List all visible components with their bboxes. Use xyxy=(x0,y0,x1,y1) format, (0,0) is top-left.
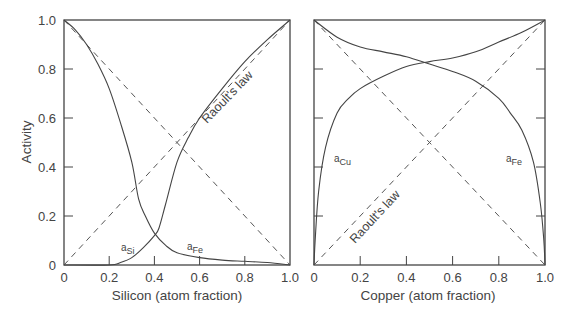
raoult-lines xyxy=(64,20,290,265)
x-tick-label: 0.8 xyxy=(236,270,254,285)
x-axis-label: Copper (atom fraction) xyxy=(360,288,495,303)
raoult-annotation: Raoult's law xyxy=(199,67,256,126)
x-tick-label: 0.6 xyxy=(191,270,209,285)
activity-figure: 00.20.40.60.81.000.20.40.60.81.0 Silicon… xyxy=(0,0,571,313)
x-tick-label: 0.8 xyxy=(490,270,508,285)
y-tick-label: 0.8 xyxy=(38,62,56,77)
y-tick-label: 0 xyxy=(49,258,56,273)
x-tick-label: 1.0 xyxy=(281,270,299,285)
raoult-annotation: Raoult's law xyxy=(347,187,404,246)
label-a-fe: aFe xyxy=(506,153,522,167)
label-a-fe: aFe xyxy=(187,241,203,255)
x-tick-label: 1.0 xyxy=(536,270,554,285)
x-tick-label: 0.2 xyxy=(351,270,369,285)
y-tick-label: 0.6 xyxy=(38,111,56,126)
x-axis-label: Silicon (atom fraction) xyxy=(112,288,243,303)
y-tick-label: 1.0 xyxy=(38,13,56,28)
x-tick-label: 0 xyxy=(60,270,67,285)
x-tick-label: 0.2 xyxy=(100,270,118,285)
x-tick-label: 0 xyxy=(310,270,317,285)
panel-copper: 00.20.40.60.81.0 Copper (atom fraction) … xyxy=(310,20,554,303)
y-axis-label: Activity xyxy=(19,120,34,163)
ticks: 00.20.40.60.81.000.20.40.60.81.0 xyxy=(38,13,299,285)
y-tick-label: 0.2 xyxy=(38,209,56,224)
label-a-cu: aCu xyxy=(334,153,351,167)
panel-silicon: 00.20.40.60.81.000.20.40.60.81.0 Silicon… xyxy=(19,13,299,303)
y-tick-label: 0.4 xyxy=(38,160,56,175)
x-tick-label: 0.4 xyxy=(145,270,163,285)
raoult-lines xyxy=(314,20,545,265)
ticks: 00.20.40.60.81.0 xyxy=(310,69,554,285)
label-a-si: aSi xyxy=(121,242,135,256)
x-tick-label: 0.4 xyxy=(397,270,415,285)
x-tick-label: 0.6 xyxy=(444,270,462,285)
